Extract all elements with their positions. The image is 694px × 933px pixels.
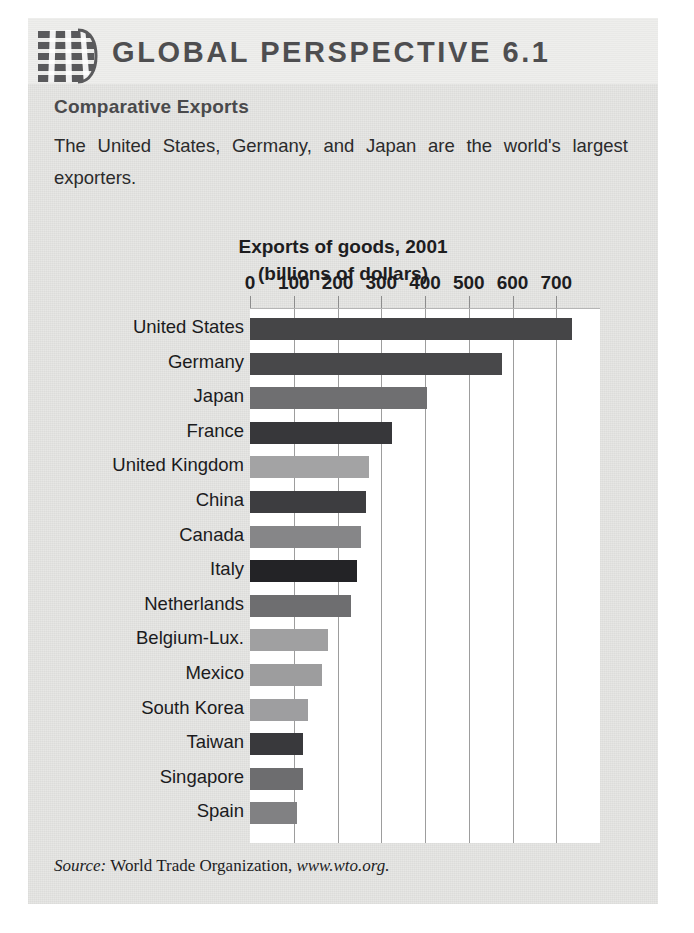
source-note: Source: World Trade Organization, www.wt… [54,856,390,876]
chart-row: Italy [250,560,600,582]
category-label: Belgium-Lux. [136,627,244,649]
tick-mark [469,296,470,308]
category-label: Spain [197,800,244,822]
category-label: Canada [179,524,244,546]
x-axis-tick-label: 0 [245,272,256,294]
chart-row: Germany [250,353,600,375]
category-label: South Korea [141,697,244,719]
source-url: www.wto.org. [296,856,389,875]
bar [250,768,303,790]
category-label: Italy [210,558,244,580]
chart-row: Taiwan [250,733,600,755]
category-label: United States [133,316,244,338]
chart-row: Belgium-Lux. [250,629,600,651]
x-axis-tick-marks [250,296,600,308]
category-label: Netherlands [144,593,244,615]
chart-row: Mexico [250,664,600,686]
chart-plot-area: United StatesGermanyJapanFranceUnited Ki… [250,308,600,843]
bar [250,595,351,617]
chart-row: Spain [250,802,600,824]
bar [250,629,328,651]
bar [250,456,369,478]
bar [250,318,572,340]
source-publisher: World Trade Organization, [106,856,296,875]
chart-title: Exports of goods, 2001 [28,233,658,260]
x-axis-tick-label: 400 [409,272,441,294]
category-label: Mexico [185,662,244,684]
globe-grid-icon [34,26,98,86]
bar [250,491,366,513]
x-axis-tick-label: 300 [365,272,397,294]
x-axis-tick-label: 200 [322,272,354,294]
bar [250,526,361,548]
tick-mark [425,296,426,308]
tick-mark [250,296,251,308]
bar [250,422,392,444]
bar [250,560,357,582]
chart-row: Netherlands [250,595,600,617]
source-label: Source: [54,856,106,875]
x-axis-tick-label: 700 [540,272,572,294]
article-subhead: Comparative Exports [54,96,249,118]
category-label: Germany [168,351,244,373]
category-label: Singapore [160,766,244,788]
tick-mark [338,296,339,308]
chart-row: United States [250,318,600,340]
bar [250,387,427,409]
x-axis-tick-labels: 0100200300400500600700 [250,272,600,296]
chart-row: United Kingdom [250,456,600,478]
x-axis-tick-label: 100 [278,272,310,294]
category-label: Japan [194,385,244,407]
tick-mark [513,296,514,308]
bar [250,802,297,824]
x-axis-tick-label: 500 [453,272,485,294]
category-label: China [196,489,244,511]
chart-row: South Korea [250,699,600,721]
bar [250,664,322,686]
masthead-band: GLOBAL PERSPECTIVE 6.1 [28,18,658,84]
masthead-title: GLOBAL PERSPECTIVE 6.1 [112,36,551,69]
tick-mark [556,296,557,308]
chart-row: Japan [250,387,600,409]
tick-mark [381,296,382,308]
page-root: GLOBAL PERSPECTIVE 6.1 Comparative Expor… [0,0,694,933]
chart-row: Canada [250,526,600,548]
category-label: Taiwan [186,731,244,753]
chart-row: France [250,422,600,444]
tick-mark [294,296,295,308]
article-intro-text: The United States, Germany, and Japan ar… [54,130,628,194]
chart-row: China [250,491,600,513]
chart-row: Singapore [250,768,600,790]
x-axis-tick-label: 600 [497,272,529,294]
category-label: United Kingdom [112,454,244,476]
global-perspective-panel: GLOBAL PERSPECTIVE 6.1 Comparative Expor… [28,18,658,904]
category-label: France [186,420,244,442]
bar [250,353,502,375]
bar [250,699,308,721]
bar [250,733,303,755]
